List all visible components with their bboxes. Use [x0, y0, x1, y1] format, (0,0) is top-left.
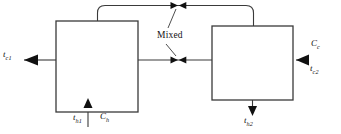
- label-th1-subscript: h1: [76, 117, 82, 124]
- cold-inlet-arrowhead: [296, 55, 309, 66]
- heat-exchanger-diagram: tc1 Cc tc2 th1 Ch th2 Mixed: [0, 0, 341, 134]
- label-hot-inlet-temperature: th1: [73, 113, 82, 122]
- label-Ch-subscript: h: [106, 116, 109, 123]
- mixed-leader-lower: [166, 44, 176, 56]
- right-exchanger-box: [212, 26, 293, 100]
- label-cold-outlet-temperature: tc1: [3, 50, 12, 59]
- label-hot-outlet-temperature: th2: [244, 116, 253, 125]
- cold-outlet-arrowhead: [24, 55, 38, 66]
- label-tc2-subscript: c2: [313, 68, 319, 75]
- diagram-canvas: [0, 0, 341, 134]
- mixed-leader-upper: [168, 9, 176, 28]
- hot-outlet-arrowhead: [248, 106, 257, 116]
- label-hot-capacity-rate: Ch: [100, 112, 109, 121]
- label-tc1-subscript: c1: [6, 54, 12, 61]
- left-exchanger-box: [56, 21, 138, 112]
- label-cold-inlet-temperature: tc2: [310, 64, 319, 73]
- label-cold-capacity-rate: Cc: [311, 39, 320, 48]
- label-Cc-subscript: c: [317, 43, 320, 50]
- label-mixed-annotation: Mixed: [157, 31, 183, 41]
- label-th2-subscript: h2: [247, 120, 253, 127]
